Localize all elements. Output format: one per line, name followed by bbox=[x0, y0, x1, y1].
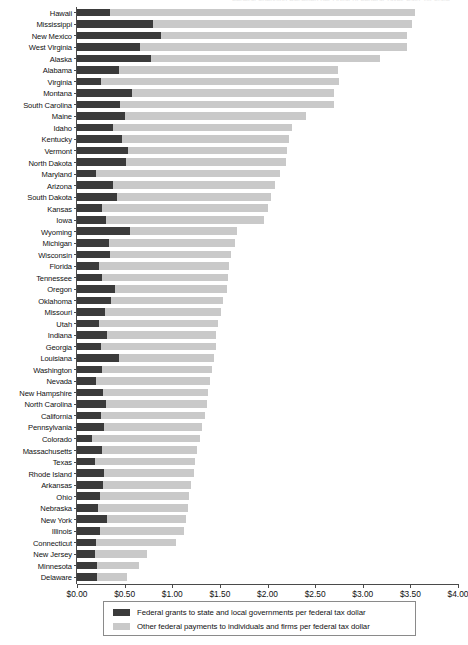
chart-row: Nebraska bbox=[77, 502, 458, 514]
y-axis-label: Louisiana bbox=[40, 354, 72, 363]
bar-segment-grants bbox=[77, 124, 113, 132]
bar-segment-grants bbox=[77, 308, 105, 316]
bar-segment-grants bbox=[77, 527, 100, 535]
y-axis-label: Kentucky bbox=[42, 135, 72, 144]
stacked-bar bbox=[77, 343, 216, 351]
stacked-bar bbox=[77, 227, 237, 235]
stacked-bar bbox=[77, 446, 197, 454]
bar-segment-grants bbox=[77, 504, 98, 512]
y-axis-label: Pennsylvania bbox=[28, 423, 72, 432]
x-axis-tick bbox=[125, 584, 126, 588]
chart-row: Arizona bbox=[77, 180, 458, 192]
bar-segment-grants bbox=[77, 147, 128, 155]
bar-segment-other bbox=[161, 32, 407, 40]
stacked-bar bbox=[77, 389, 208, 397]
bar-segment-other bbox=[111, 297, 222, 305]
bar-segment-other bbox=[128, 147, 287, 155]
bar-segment-grants bbox=[77, 43, 140, 51]
x-axis-tick bbox=[268, 584, 269, 588]
chart-row: Alaska bbox=[77, 53, 458, 65]
bar-segment-grants bbox=[77, 539, 96, 547]
bar-segment-other bbox=[109, 239, 235, 247]
bar-segment-other bbox=[97, 573, 127, 581]
bar-segment-grants bbox=[77, 562, 97, 570]
legend-swatch-other bbox=[113, 623, 130, 630]
chart-row: North Dakota bbox=[77, 157, 458, 169]
chart-row: Vermont bbox=[77, 145, 458, 157]
stacked-bar bbox=[77, 124, 292, 132]
bar-segment-grants bbox=[77, 320, 99, 328]
bar-segment-grants bbox=[77, 285, 115, 293]
stacked-bar bbox=[77, 239, 235, 247]
bar-segment-other bbox=[106, 400, 207, 408]
bar-segment-grants bbox=[77, 20, 153, 28]
bar-segment-other bbox=[132, 89, 334, 97]
bar-segment-grants bbox=[77, 412, 101, 420]
bar-segment-other bbox=[104, 469, 194, 477]
chart-row: Hawaii bbox=[77, 7, 458, 19]
stacked-bar bbox=[77, 32, 407, 40]
stacked-bar bbox=[77, 262, 229, 270]
y-axis-label: Tennessee bbox=[36, 273, 72, 282]
bar-segment-other bbox=[103, 481, 192, 489]
stacked-bar bbox=[77, 135, 289, 143]
legend-entry-other: Other federal payments to individuals an… bbox=[113, 621, 370, 632]
y-axis-label: Kansas bbox=[47, 204, 72, 213]
x-axis-tick bbox=[410, 584, 411, 588]
chart-row: Connecticut bbox=[77, 537, 458, 549]
stacked-bar bbox=[77, 550, 147, 558]
chart-row: Maryland bbox=[77, 168, 458, 180]
y-axis-label: Wisconsin bbox=[38, 250, 72, 259]
bar-segment-grants bbox=[77, 354, 119, 362]
stacked-bar bbox=[77, 458, 195, 466]
bar-segment-other bbox=[119, 66, 338, 74]
chart-row: New Hampshire bbox=[77, 387, 458, 399]
bar-segment-other bbox=[101, 412, 205, 420]
bar-segment-other bbox=[153, 20, 412, 28]
y-axis-label: Maine bbox=[52, 112, 72, 121]
chart-row: Alabama bbox=[77, 65, 458, 77]
x-axis-tick bbox=[458, 584, 459, 588]
stacked-bar bbox=[77, 101, 334, 109]
legend-swatch-grants bbox=[113, 609, 130, 616]
y-axis-label: Delaware bbox=[41, 573, 72, 582]
x-axis-label: $4.00 bbox=[448, 589, 468, 599]
bar-segment-grants bbox=[77, 297, 111, 305]
y-axis-label: New Hampshire bbox=[19, 388, 72, 397]
legend-label-other: Other federal payments to individuals an… bbox=[137, 622, 370, 631]
chart-row: Wisconsin bbox=[77, 249, 458, 261]
bar-segment-other bbox=[95, 458, 195, 466]
bar-segment-other bbox=[96, 170, 280, 178]
bar-segment-other bbox=[120, 101, 334, 109]
x-axis-label: $1.50 bbox=[209, 589, 230, 599]
stacked-bar bbox=[77, 170, 280, 178]
bar-segment-other bbox=[113, 181, 275, 189]
y-axis-label: Arizona bbox=[47, 181, 72, 190]
stacked-bar bbox=[77, 492, 189, 500]
bar-segment-other bbox=[96, 539, 176, 547]
chart-row: Montana bbox=[77, 88, 458, 100]
bar-segment-grants bbox=[77, 193, 117, 201]
y-axis-label: Nevada bbox=[46, 377, 72, 386]
y-axis-label: Hawaii bbox=[50, 8, 72, 17]
bar-segment-other bbox=[119, 354, 214, 362]
y-axis-label: Georgia bbox=[46, 342, 72, 351]
bar-segment-other bbox=[103, 389, 209, 397]
bar-segment-other bbox=[101, 343, 216, 351]
y-axis-label: Minnesota bbox=[38, 561, 72, 570]
stacked-bar bbox=[77, 308, 221, 316]
bar-segment-other bbox=[117, 193, 271, 201]
plot-area: HawaiiMississippiNew MexicoWest Virginia… bbox=[77, 7, 458, 583]
y-axis-label: Oregon bbox=[47, 285, 72, 294]
stacked-bar bbox=[77, 320, 218, 328]
stacked-bar bbox=[77, 216, 264, 224]
chart-row: Colorado bbox=[77, 433, 458, 445]
bar-segment-other bbox=[107, 515, 185, 523]
y-axis-label: Colorado bbox=[42, 434, 72, 443]
stacked-bar bbox=[77, 331, 216, 339]
chart-row: Rhode Island bbox=[77, 468, 458, 480]
bar-segment-other bbox=[130, 227, 237, 235]
bar-segment-other bbox=[92, 435, 200, 443]
chart-row: Georgia bbox=[77, 341, 458, 353]
